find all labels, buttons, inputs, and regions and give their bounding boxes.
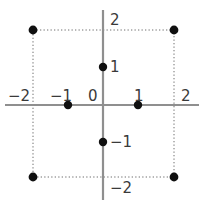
y-tick-label-pos1: 1 xyxy=(110,60,120,75)
plot-canvas xyxy=(0,0,204,206)
x-tick-label-neg2: −2 xyxy=(8,89,30,104)
y-tick-label-neg1: −1 xyxy=(110,135,132,150)
corner-bottom-left xyxy=(29,173,38,182)
x-tick-label-zero: 0 xyxy=(88,89,98,104)
point-down xyxy=(99,138,107,146)
x-tick-label-neg1: −1 xyxy=(50,89,72,104)
x-tick-label-pos1: 1 xyxy=(134,89,144,104)
y-tick-label-pos2: 2 xyxy=(110,13,120,28)
corner-bottom-right xyxy=(170,173,179,182)
corner-top-left xyxy=(29,26,38,35)
x-tick-label-pos2: 2 xyxy=(181,89,191,104)
corner-top-right xyxy=(170,26,179,35)
y-tick-label-neg2: −2 xyxy=(110,181,132,196)
coordinate-plane-figure: −2 −1 0 1 2 2 1 −1 −2 xyxy=(0,0,204,206)
point-up xyxy=(99,63,107,71)
